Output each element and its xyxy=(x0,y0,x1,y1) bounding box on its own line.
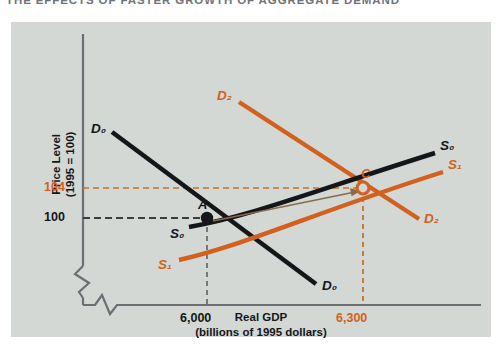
x-axis-title-line1: Real GDP xyxy=(235,311,287,323)
a-to-c-arrow xyxy=(213,188,361,221)
point-C-marker xyxy=(357,182,369,194)
curve-D2 xyxy=(239,102,419,219)
x-axis-title-line2: (billions of 1995 dollars) xyxy=(195,326,327,338)
curve-S1 xyxy=(179,172,443,260)
point-label-A: A xyxy=(198,198,207,212)
y-axis-title: Price Level (1995 = 100) xyxy=(49,104,78,224)
y-tick-label-104: 104 xyxy=(44,181,65,194)
chart-plot-panel: Price Level (1995 = 100) 104 100 6,000 6… xyxy=(11,22,491,337)
point-A-marker xyxy=(201,212,213,224)
curve-label-D2-end: D₂ xyxy=(424,212,439,226)
x-axis-break-zigzag xyxy=(83,295,129,314)
curve-label-D0-end: D₀ xyxy=(322,279,337,293)
y-tick-label-100: 100 xyxy=(44,211,65,224)
y-axis-title-line2: (1995 = 100) xyxy=(64,132,76,198)
point-label-C: C xyxy=(361,167,370,181)
curve-label-D0-start: D₀ xyxy=(91,122,106,136)
curve-label-S1-start: S₁ xyxy=(158,258,172,272)
curve-label-S0-start: S₀ xyxy=(170,227,184,241)
curve-label-D2-start: D₂ xyxy=(217,89,232,103)
y-axis-break-zigzag xyxy=(75,266,89,298)
curve-D0 xyxy=(112,132,316,284)
x-axis-title: Real GDP (billions of 1995 dollars) xyxy=(131,310,391,340)
chart-svg xyxy=(11,22,491,337)
figure-title: THE EFFECTS OF FASTER GROWTH OF AGGREGAT… xyxy=(6,0,400,6)
curve-label-S1-end: S₁ xyxy=(448,158,462,172)
curve-label-S0-end: S₀ xyxy=(440,139,454,153)
